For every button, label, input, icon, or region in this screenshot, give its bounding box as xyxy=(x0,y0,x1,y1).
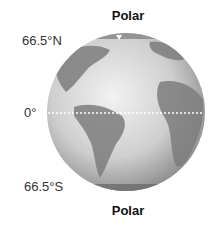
globe xyxy=(0,0,224,227)
south-polar-cap xyxy=(40,184,220,196)
north-polar-cap xyxy=(40,30,220,39)
